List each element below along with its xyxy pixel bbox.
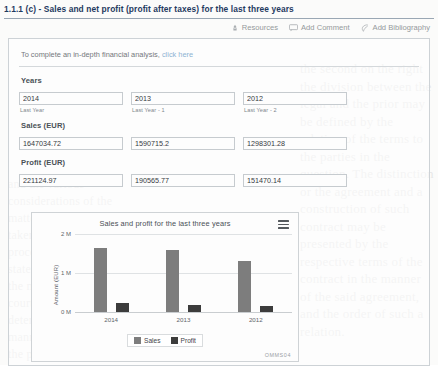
resources-label: Resources <box>242 23 278 32</box>
chart-bars <box>75 234 292 312</box>
chart-legend: Sales Profit <box>32 334 298 347</box>
click-here-link[interactable]: click here <box>162 50 193 59</box>
chart-title: Sales and profit for the last three year… <box>32 213 298 228</box>
y-axis-label: Amount (EUR) <box>53 265 59 306</box>
bar-group-2 <box>238 234 273 312</box>
bar-profit-2[interactable] <box>260 306 273 312</box>
legend-label-sales: Sales <box>144 337 161 344</box>
sales-group-label: Sales (EUR) <box>21 121 419 130</box>
legend-item-sales[interactable]: Sales <box>134 337 161 344</box>
x-axis-ticks: 2014 2013 2012 <box>75 316 292 323</box>
year-sublabel-2: Last Year - 2 <box>244 107 347 113</box>
profit-input-1[interactable] <box>131 174 235 187</box>
analysis-hint-text: To complete an in-depth financial analys… <box>21 50 160 59</box>
year-input-1[interactable] <box>131 92 235 105</box>
profit-input-0[interactable] <box>19 174 123 187</box>
profit-input-2[interactable] <box>243 174 347 187</box>
profit-group: Profit (EUR) <box>19 158 419 187</box>
resources-icon <box>231 24 239 32</box>
sales-group: Sales (EUR) <box>19 121 419 150</box>
bar-group-0 <box>94 234 129 312</box>
chart-watermark: OMMS04 <box>265 352 291 358</box>
sales-input-2[interactable] <box>243 137 347 150</box>
profit-field-1 <box>131 169 235 187</box>
legend-swatch-profit <box>171 337 178 344</box>
years-group: Years Last Year Last Year - 1 Last Year … <box>19 76 419 113</box>
chart-plot-area: Amount (EUR) 2 M 1 M 0 M <box>32 230 300 340</box>
year-input-0[interactable] <box>19 92 123 105</box>
sales-field-1 <box>131 132 235 150</box>
bar-sales-1[interactable] <box>166 250 179 312</box>
year-sublabel-0: Last Year <box>20 107 123 113</box>
bar-profit-0[interactable] <box>116 303 129 312</box>
profit-fields <box>19 169 419 187</box>
sales-input-1[interactable] <box>131 137 235 150</box>
year-field-2: Last Year - 2 <box>243 87 347 113</box>
sales-field-0 <box>19 132 123 150</box>
sales-fields <box>19 132 419 150</box>
legend-item-profit[interactable]: Profit <box>171 337 196 344</box>
y-tick-0: 0 M <box>61 309 71 315</box>
sales-input-0[interactable] <box>19 137 123 150</box>
year-sublabel-1: Last Year - 1 <box>132 107 235 113</box>
profit-field-2 <box>243 169 347 187</box>
year-field-1: Last Year - 1 <box>131 87 235 113</box>
years-group-label: Years <box>21 76 419 85</box>
year-field-0: Last Year <box>19 87 123 113</box>
hamburger-menu-icon[interactable] <box>278 220 289 229</box>
legend-swatch-sales <box>134 337 141 344</box>
sales-profit-chart: Sales and profit for the last three year… <box>31 212 299 362</box>
page-title: 1.1.1 (c) - Sales and net profit (profit… <box>0 0 438 18</box>
bibliography-icon <box>361 24 370 32</box>
y-tick-1: 1 M <box>61 270 71 276</box>
years-fields: Last Year Last Year - 1 Last Year - 2 <box>19 87 419 113</box>
analysis-hint: To complete an in-depth financial analys… <box>19 48 419 66</box>
sales-field-2 <box>243 132 347 150</box>
chart-plot: 2 M 1 M 0 M <box>75 234 292 312</box>
bar-sales-0[interactable] <box>94 248 107 312</box>
legend-label-profit: Profit <box>181 337 196 344</box>
add-bibliography-label: Add Bibliography <box>373 23 430 32</box>
answer-card: To complete an in-depth financial analys… <box>8 38 430 366</box>
add-bibliography-button[interactable]: Add Bibliography <box>361 23 430 32</box>
x-tick-2: 2012 <box>238 316 273 323</box>
gridline-0m: 0 M <box>75 312 292 313</box>
year-input-2[interactable] <box>243 92 347 105</box>
y-tick-2: 2 M <box>61 231 71 237</box>
legend-box: Sales Profit <box>127 334 203 347</box>
profit-field-0 <box>19 169 123 187</box>
bar-sales-2[interactable] <box>238 261 251 312</box>
x-tick-0: 2014 <box>94 316 129 323</box>
comment-icon <box>289 24 298 32</box>
bar-profit-1[interactable] <box>188 305 201 312</box>
profit-group-label: Profit (EUR) <box>21 158 419 167</box>
action-toolbar: Resources Add Comment Add Bibliography <box>0 19 438 35</box>
resources-button[interactable]: Resources <box>231 23 278 32</box>
add-comment-label: Add Comment <box>301 23 350 32</box>
add-comment-button[interactable]: Add Comment <box>289 23 350 32</box>
hint-divider <box>19 66 419 67</box>
x-tick-1: 2013 <box>166 316 201 323</box>
bar-group-1 <box>166 234 201 312</box>
